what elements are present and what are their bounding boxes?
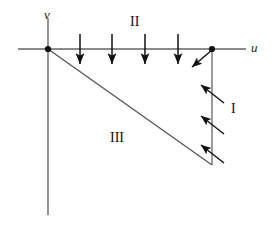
corner-arrow (192, 50, 212, 67)
region-label-one: I (231, 102, 236, 116)
u-axis-label: u (251, 41, 258, 54)
phase-plane-diagram: v u I II III (0, 0, 277, 229)
corner-arrow-group (192, 50, 212, 67)
origin-dot (45, 46, 51, 52)
v-axis-label: v (44, 8, 50, 21)
region-label-three: III (110, 131, 124, 145)
triangle-edges (48, 49, 212, 165)
diagonal-hypotenuse (48, 49, 212, 165)
region-label-two: II (130, 15, 139, 29)
